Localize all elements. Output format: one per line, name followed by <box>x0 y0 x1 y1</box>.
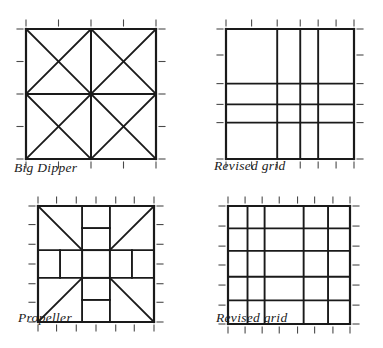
figure-cell-revised-grid-1: Revised grid <box>196 0 383 186</box>
figure-cell-propeller: Propeller <box>0 186 196 348</box>
big-dipper-diagram <box>14 17 174 177</box>
caption-big-dipper: Big Dipper <box>14 160 77 176</box>
caption-revised-grid-1: Revised grid <box>214 158 285 174</box>
figure-cell-revised-grid-2: Revised grid <box>196 186 383 348</box>
pattern-segment <box>110 206 154 250</box>
figure-panel-grid: Big Dipper Revised grid Propeller Revise… <box>0 0 383 348</box>
revised-grid-1-diagram <box>214 17 372 177</box>
caption-propeller: Propeller <box>18 310 72 326</box>
pattern-segment <box>38 206 82 250</box>
caption-revised-grid-2: Revised grid <box>216 310 287 326</box>
pattern-segment <box>110 278 154 322</box>
figure-cell-big-dipper: Big Dipper <box>0 0 196 186</box>
